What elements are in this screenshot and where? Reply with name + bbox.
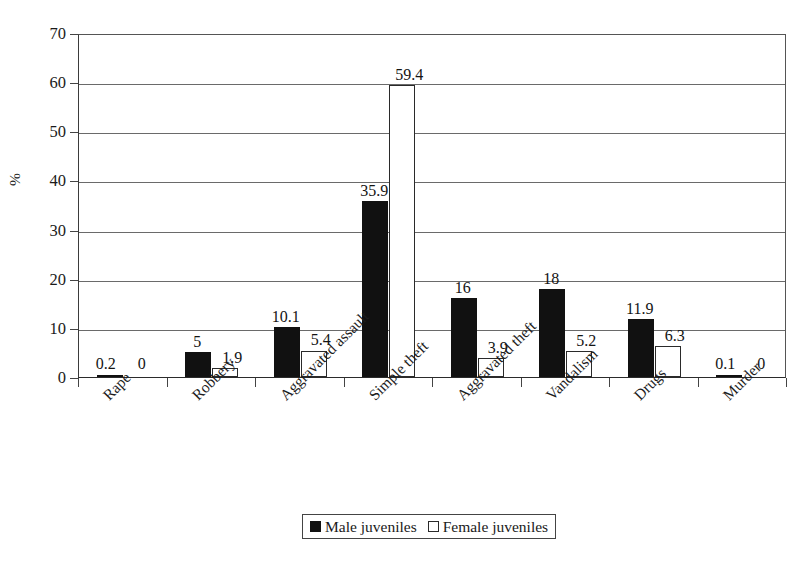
data-label-male-aggravated-assault: 10.1 — [256, 309, 316, 325]
y-tick-label-50: 50 — [22, 124, 66, 141]
x-tick-mark-0 — [78, 378, 79, 387]
x-tick-mark-5 — [521, 378, 522, 387]
x-tick-mark-6 — [609, 378, 610, 387]
y-tick-mark-60 — [70, 83, 78, 84]
hollow-square-icon — [428, 521, 439, 532]
data-label-male-simple-theft: 35.9 — [344, 183, 404, 199]
bar-chart-figure: 706050403020100 % 0.2051.910.15.435.959.… — [0, 0, 806, 571]
y-tick-mark-10 — [70, 329, 78, 330]
y-tick-label-30: 30 — [22, 223, 66, 240]
legend-item-male: Male juveniles — [310, 518, 417, 536]
x-tick-mark-1 — [167, 378, 168, 387]
y-tick-label-70: 70 — [22, 26, 66, 43]
y-tick-mark-70 — [70, 34, 78, 35]
y-tick-label-20: 20 — [22, 272, 66, 289]
x-tick-mark-4 — [432, 378, 433, 387]
data-label-male-aggravated-theft: 16 — [433, 280, 493, 296]
legend-label-female: Female juveniles — [443, 518, 548, 536]
x-tick-mark-7 — [698, 378, 699, 387]
y-tick-mark-0 — [70, 378, 78, 379]
chart-legend: Male juveniles Female juveniles — [302, 514, 556, 539]
y-tick-label-10: 10 — [22, 321, 66, 338]
data-label-female-simple-theft: 59.4 — [379, 67, 439, 83]
y-axis: 706050403020100 % — [0, 0, 806, 571]
y-tick-mark-20 — [70, 280, 78, 281]
y-tick-label-40: 40 — [22, 173, 66, 190]
filled-square-icon — [310, 521, 321, 532]
x-tick-mark-8 — [786, 378, 787, 387]
y-tick-label-0: 0 — [22, 370, 66, 387]
y-axis-title: % — [6, 173, 24, 186]
data-label-female-drugs: 6.3 — [645, 328, 705, 344]
y-tick-mark-40 — [70, 181, 78, 182]
y-tick-mark-30 — [70, 231, 78, 232]
data-label-male-robbery: 5 — [167, 334, 227, 350]
data-label-male-vandalism: 18 — [521, 271, 581, 287]
x-tick-mark-3 — [344, 378, 345, 387]
data-label-male-drugs: 11.9 — [610, 301, 670, 317]
legend-label-male: Male juveniles — [325, 518, 417, 536]
y-tick-label-60: 60 — [22, 75, 66, 92]
x-tick-mark-2 — [255, 378, 256, 387]
legend-item-female: Female juveniles — [428, 518, 548, 536]
y-tick-mark-50 — [70, 132, 78, 133]
